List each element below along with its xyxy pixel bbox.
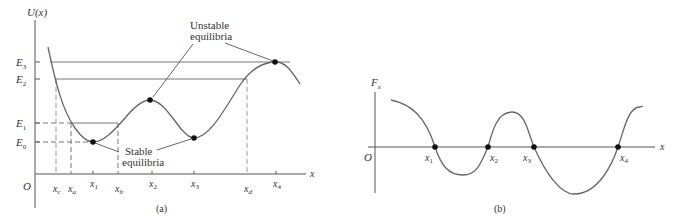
svg-text:xa: xa bbox=[67, 183, 76, 196]
unstable-label-line2: equilibria bbox=[190, 30, 232, 42]
svg-text:x1: x1 bbox=[89, 178, 98, 191]
potential-curve bbox=[48, 47, 300, 142]
svg-text:xd: xd bbox=[243, 183, 252, 196]
zero-point-x1 bbox=[432, 144, 438, 150]
x-tick-labels: xc xa x1 xb x2 x3 xd x4 bbox=[52, 178, 281, 196]
stable-leader-2 bbox=[157, 139, 191, 150]
panel-b: Fx x O x1 x2 x3 x4 (b) bbox=[364, 76, 665, 215]
origin-label: O bbox=[23, 180, 31, 192]
svg-text:x3: x3 bbox=[190, 178, 199, 191]
energy-labels: E3 E2 E1 E0 bbox=[15, 56, 27, 151]
svg-text:x2: x2 bbox=[148, 178, 157, 191]
svg-text:E2: E2 bbox=[15, 73, 27, 88]
fx-origin-label: O bbox=[364, 151, 372, 163]
stable-leader-1 bbox=[95, 143, 119, 152]
unstable-point-x4 bbox=[272, 59, 278, 65]
zero-point-x2 bbox=[485, 144, 491, 150]
zero-point-x3 bbox=[531, 144, 537, 150]
unstable-leader-1 bbox=[153, 44, 193, 97]
zero-point-x4 bbox=[615, 144, 621, 150]
svg-text:x4: x4 bbox=[272, 178, 281, 191]
svg-text:x4: x4 bbox=[619, 152, 628, 165]
svg-text:E1: E1 bbox=[15, 117, 27, 132]
fx-y-axis-label: Fx bbox=[370, 76, 382, 91]
unstable-point-x2 bbox=[147, 97, 153, 103]
panel-a: U(x) x O bbox=[15, 6, 315, 215]
stable-label-line2: equilibria bbox=[122, 156, 164, 168]
svg-text:E3: E3 bbox=[15, 56, 27, 71]
unstable-leader-2 bbox=[225, 43, 273, 61]
fx-x-tick-labels: x1 x2 x3 x4 bbox=[424, 152, 628, 165]
stable-point-x1 bbox=[90, 139, 96, 145]
stable-point-x3 bbox=[191, 135, 197, 141]
y-axis-label: U(x) bbox=[27, 6, 47, 19]
svg-text:xc: xc bbox=[52, 183, 61, 196]
figure-canvas: U(x) x O bbox=[0, 0, 679, 222]
caption-b: (b) bbox=[494, 203, 506, 215]
svg-text:x1: x1 bbox=[424, 152, 433, 165]
x-axis-label: x bbox=[309, 168, 315, 179]
caption-a: (a) bbox=[156, 203, 167, 215]
svg-text:xb: xb bbox=[114, 183, 123, 196]
fx-x-axis-label: x bbox=[659, 141, 665, 152]
svg-text:x2: x2 bbox=[489, 152, 498, 165]
svg-text:x3: x3 bbox=[522, 152, 531, 165]
svg-text:E0: E0 bbox=[15, 136, 27, 151]
